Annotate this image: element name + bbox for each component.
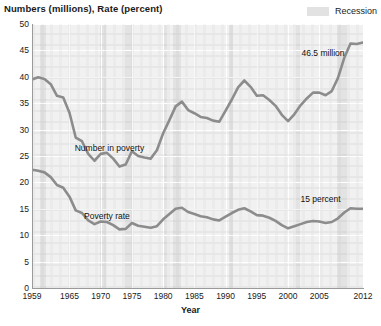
x-axis-tick-label: 1959 [23, 291, 42, 301]
x-axis-title: Year [0, 305, 381, 315]
y-axis-tick-label: 20 [3, 177, 29, 187]
number-in-poverty-label: Number in poverty [75, 143, 144, 153]
y-axis-ticks: 05101520253035404550 [0, 24, 29, 288]
x-axis-tick-label: 1990 [216, 291, 235, 301]
y-axis-tick-label: 40 [3, 72, 29, 82]
y-axis-tick-label: 5 [3, 257, 29, 267]
x-axis-tick-label: 1970 [91, 291, 110, 301]
y-axis-tick-label: 45 [3, 45, 29, 55]
chart-legend: Recession [307, 6, 377, 16]
series-lines [32, 24, 363, 288]
x-axis-tick-label: 1980 [154, 291, 173, 301]
x-axis-ticks: 1959196519701975198019851990199520002005… [32, 291, 363, 305]
value-46-5-million: 46.5 million [302, 48, 345, 58]
y-axis-tick-label: 35 [3, 98, 29, 108]
x-axis-tick-label: 1995 [247, 291, 266, 301]
x-axis-tick-label: 1965 [60, 291, 79, 301]
value-15-percent: 15 percent [300, 194, 340, 204]
y-axis-tick-label: 50 [3, 19, 29, 29]
legend-label-recession: Recession [335, 6, 377, 16]
poverty-chart: Numbers (millions), Rate (percent) Reces… [0, 0, 381, 326]
x-axis-tick-label: 1985 [185, 291, 204, 301]
x-axis-tick-label: 2000 [279, 291, 298, 301]
x-axis-tick-label: 2005 [310, 291, 329, 301]
recession-swatch-icon [307, 7, 329, 16]
y-axis-tick-label: 10 [3, 230, 29, 240]
y-axis-tick-label: 30 [3, 125, 29, 135]
chart-axis-title-top: Numbers (millions), Rate (percent) [4, 3, 163, 14]
x-axis-tick-label: 2012 [354, 291, 373, 301]
y-axis-tick-label: 15 [3, 204, 29, 214]
x-axis-tick-label: 1975 [122, 291, 141, 301]
poverty-rate-label: Poverty rate [84, 211, 130, 221]
plot-area: Number in povertyPoverty rate46.5 millio… [32, 24, 363, 288]
y-axis-tick-label: 25 [3, 151, 29, 161]
